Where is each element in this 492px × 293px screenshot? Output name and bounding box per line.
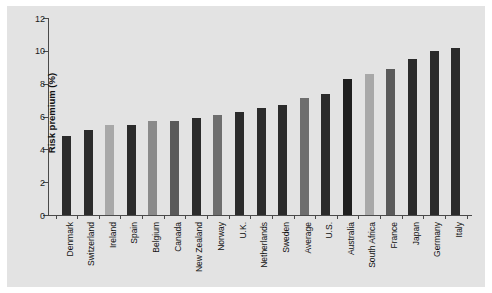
y-tick-label: 12	[35, 14, 45, 24]
x-tick-label: U.K.	[243, 205, 253, 222]
y-tick-label: 0	[40, 211, 45, 221]
x-tick-label-text: Denmark	[65, 222, 75, 256]
bar	[235, 112, 244, 215]
x-tick-label-text: South Africa	[367, 222, 377, 268]
x-tick-label-text: New Zealand	[194, 222, 204, 272]
x-tick-label: Average	[308, 190, 318, 222]
x-tick-mark	[56, 215, 57, 219]
x-tick-label: Spain	[134, 200, 144, 222]
x-tick-label-text: U.S.	[324, 222, 334, 239]
y-tick-label: 2	[40, 178, 45, 188]
x-tick-label: Belgium	[156, 191, 166, 222]
x-tick-label: Italy	[459, 206, 469, 222]
x-tick-label: Germany	[437, 187, 447, 222]
x-tick-label: Denmark	[70, 188, 80, 222]
x-tick-label-text: Sweden	[281, 222, 291, 253]
x-tick-label: Norway	[221, 193, 231, 222]
x-tick-label: Switzerland	[91, 178, 101, 222]
x-tick-label: Japan	[416, 199, 426, 222]
x-tick-label: Canada	[178, 192, 188, 222]
x-tick-label-text: Norway	[216, 222, 226, 251]
bar	[451, 48, 460, 215]
x-tick-label-text: Australia	[346, 222, 356, 255]
bar	[408, 59, 417, 215]
x-tick-label: Ireland	[113, 196, 123, 222]
x-tick-label-text: Japan	[411, 222, 421, 245]
x-tick-label-text: Canada	[173, 222, 183, 252]
chart-figure: Risk premium (%) 024681012 DenmarkSwitze…	[7, 6, 485, 287]
x-tick-label-text: Belgium	[151, 222, 161, 253]
y-tick-label: 8	[40, 79, 45, 89]
x-tick-label-text: France	[389, 222, 399, 248]
x-tick-label-text: Switzerland	[86, 222, 96, 266]
x-tick-label: Australia	[351, 189, 361, 222]
x-tick-label: South Africa	[372, 176, 382, 222]
y-tick-label: 10	[35, 46, 45, 56]
y-tick-label: 4	[40, 145, 45, 155]
plot-area: Risk premium (%) 024681012 DenmarkSwitze…	[48, 18, 472, 215]
x-tick-label: U.S.	[329, 205, 339, 222]
x-tick-label-text: Italy	[454, 222, 464, 238]
x-axis-line	[48, 215, 472, 216]
bar	[386, 69, 395, 215]
x-tick-label-text: Spain	[129, 222, 139, 244]
x-tick-label: Netherlands	[264, 176, 274, 222]
x-tick-label-text: Average	[303, 222, 313, 254]
x-tick-label: New Zealand	[199, 172, 209, 222]
x-tick-label-text: Germany	[432, 222, 442, 257]
x-tick-label-text: Netherlands	[259, 222, 269, 268]
x-tick-label-text: U.K.	[238, 222, 248, 239]
y-tick: 0	[48, 215, 49, 216]
x-tick-label-text: Ireland	[108, 222, 118, 248]
x-tick-label: Sweden	[286, 191, 296, 222]
y-tick-label: 6	[40, 112, 45, 122]
x-tick-label: France	[394, 196, 404, 222]
bar-series	[48, 18, 472, 215]
bar	[321, 94, 330, 215]
